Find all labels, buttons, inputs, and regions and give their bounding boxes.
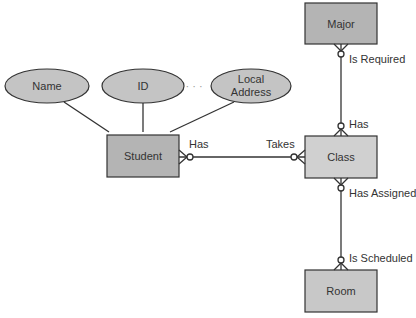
relationship-major-class [334,44,348,136]
entity-student: Student [107,135,179,177]
rel-label-has: Has [189,138,209,150]
rel-label-has-assigned: Has Assigned [349,187,416,199]
entity-class-label: Class [327,151,355,163]
connector-address-student [170,102,234,132]
er-diagram: Name ID · · · Local Address Student Clas… [0,0,416,318]
attribute-local-label-line1: Local [238,73,264,85]
attribute-name: Name [5,69,89,103]
entity-major-label: Major [327,18,355,30]
entity-room-label: Room [326,285,355,297]
relationship-class-room [334,178,348,270]
attribute-name-label: Name [32,80,61,92]
attribute-local-label-line2: Address [231,86,272,98]
rel-label-takes: Takes [266,138,295,150]
rel-label-class-has: Has [349,118,369,130]
rel-label-is-scheduled: Is Scheduled [349,252,413,264]
entity-student-label: Student [124,150,162,162]
entity-class: Class [305,136,377,178]
attribute-id: ID [102,69,184,103]
entity-room: Room [305,270,377,312]
attribute-local-address: Local Address [211,69,291,103]
more-attributes-ellipsis: · · · [185,80,202,92]
relationship-student-class [179,150,305,164]
entity-major: Major [305,3,377,44]
attribute-id-label: ID [138,80,149,92]
connector-name-student [64,102,109,132]
rel-label-is-required: Is Required [349,53,405,65]
